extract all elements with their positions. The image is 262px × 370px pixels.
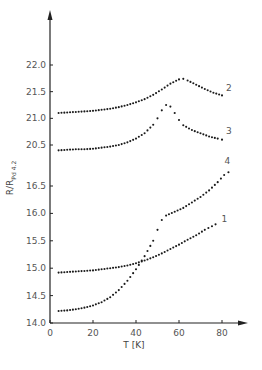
data-point [75,308,77,310]
data-point [75,270,77,272]
data-point [218,93,220,95]
data-point [202,194,204,196]
data-point [208,135,210,137]
data-point [123,105,125,107]
data-point [212,92,214,94]
data-point [161,109,163,111]
data-point [182,78,184,80]
data-point [141,134,143,136]
data-point [112,145,114,147]
y-tick-label: 14.5 [26,291,46,301]
data-point [101,147,103,149]
data-point [80,307,82,309]
x-tick-label: 60 [173,328,185,338]
data-point [169,106,171,108]
data-point [155,255,157,257]
data-point [58,272,60,274]
data-point [195,234,197,236]
data-point [211,187,213,189]
data-point [66,149,68,151]
data-point [191,129,193,131]
data-point [115,266,117,268]
data-point [75,148,77,150]
data-point [144,132,146,134]
data-point [126,264,128,266]
data-point [75,111,77,113]
data-point [146,97,148,99]
data-point [132,272,134,274]
data-point [220,178,222,180]
data-point [58,112,60,114]
data-point [69,271,71,273]
data-point [205,134,207,136]
data-point [109,296,111,298]
data-point [138,136,140,138]
data-point [109,108,111,110]
data-point [86,306,88,308]
data-point [60,310,62,312]
x-tick-label: 40 [130,328,142,338]
data-point [63,310,65,312]
data-point [109,146,111,148]
data-point [198,232,200,234]
data-point [109,267,111,269]
resistance-vs-temperature-chart: 020406080 20.521.021.522.014.014.515.015… [0,0,262,370]
data-point [146,250,148,252]
data-point [172,247,174,249]
data-point [83,307,85,309]
data-point [175,80,177,82]
curve-label-1: 1 [222,214,228,224]
data-point [201,231,203,233]
data-point [179,208,181,210]
data-point [149,257,151,259]
data-point [60,149,62,151]
data-point [192,236,194,238]
curve-label-4: 4 [224,156,230,166]
data-point [78,270,80,272]
data-point [175,245,177,247]
data-point [121,105,123,107]
y-ticks: 20.521.021.522.014.014.515.015.516.016.5 [26,60,53,328]
data-point [83,148,85,150]
data-point [181,242,183,244]
data-point [207,89,209,91]
data-point [126,104,128,106]
data-point [132,139,134,141]
data-point [168,213,170,215]
data-point [115,107,117,109]
curve-label-3: 3 [226,126,232,136]
data-point [60,112,62,114]
data-point [92,110,94,112]
data-point [86,148,88,150]
data-point [201,87,203,89]
data-point [177,209,179,211]
data-point [156,117,158,119]
data-point [187,239,189,241]
y-tick-label: 16.0 [26,208,46,218]
data-point [144,259,146,261]
data-point [214,137,216,139]
data-point [103,146,105,148]
data-point [141,259,143,261]
data-point [80,270,82,272]
data-point [92,269,94,271]
data-point [174,112,176,114]
data-point [178,78,180,80]
data-point [169,248,171,250]
data-point [106,146,108,148]
data-point [95,303,97,305]
data-point [217,181,219,183]
x-axis-label: T [K] [122,340,144,350]
data-point [135,268,137,270]
data-point [155,92,157,94]
data-point [101,109,103,111]
y-tick-label: 20.5 [26,140,46,150]
data-point [123,283,125,285]
data-point [112,294,114,296]
data-point [80,148,82,150]
data-point [208,189,210,191]
data-point [60,271,62,273]
data-point [152,94,154,96]
data-point [166,249,168,251]
data-point [118,106,120,108]
